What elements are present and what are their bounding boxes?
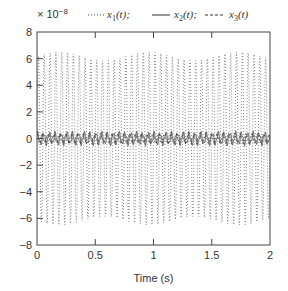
x-tick-label: 0 bbox=[34, 249, 40, 261]
plot-area bbox=[37, 32, 270, 245]
legend: × 10−8 x1(t); x2(t); x3(t) bbox=[37, 7, 249, 23]
x-axis-title: Time (s) bbox=[134, 272, 174, 284]
y-tick-label: −2 bbox=[19, 159, 32, 171]
y-tick-label: −4 bbox=[19, 186, 32, 198]
y-axis: 86420−2−4−6−8 bbox=[19, 26, 43, 251]
x-tick-label: 0.5 bbox=[88, 249, 103, 261]
y-tick-label: 2 bbox=[26, 106, 32, 118]
x-tick-label: 2 bbox=[267, 249, 273, 261]
legend-x3-label: x3(t) bbox=[228, 8, 249, 23]
y-exponent-label: × 10−8 bbox=[37, 7, 68, 20]
y-tick-label: 6 bbox=[26, 53, 32, 65]
y-tick-label: 4 bbox=[26, 79, 32, 91]
y-tick-label: 8 bbox=[26, 26, 32, 38]
legend-x2-label: x2(t); bbox=[173, 8, 197, 23]
y-tick-label: 0 bbox=[26, 133, 32, 145]
x-tick-label: 1 bbox=[150, 249, 156, 261]
y-tick-label: −8 bbox=[19, 239, 32, 251]
x-tick-label: 1.5 bbox=[204, 249, 219, 261]
chart: × 10−8 x1(t); x2(t); x3(t) 86420−2−4−6−8… bbox=[0, 0, 288, 291]
legend-x1-label: x1(t); bbox=[106, 8, 130, 23]
y-tick-label: −6 bbox=[19, 212, 32, 224]
